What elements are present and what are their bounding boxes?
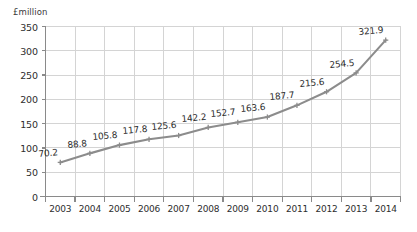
x-axis-tick-label: 2010 xyxy=(256,204,278,214)
x-axis-tick-label: 2008 xyxy=(197,204,219,214)
x-axis-tick-label: 2003 xyxy=(49,204,71,214)
x-axis-tick-label: 2004 xyxy=(79,204,101,214)
y-axis-tick-label: 0 xyxy=(8,191,38,202)
x-axis-tick-label: 2006 xyxy=(138,204,160,214)
y-axis-tick-label: 150 xyxy=(8,118,38,129)
x-axis-tick-label: 2014 xyxy=(375,204,397,214)
line-chart: £million 050100150200250300350 200320042… xyxy=(0,0,417,232)
y-axis-tick-label: 200 xyxy=(8,94,38,105)
x-axis-tick-label: 2012 xyxy=(315,204,337,214)
x-axis-tick-label: 2013 xyxy=(345,204,367,214)
y-axis-tick-label: 350 xyxy=(8,21,38,32)
y-axis-tick-label: 100 xyxy=(8,142,38,153)
y-axis-tick-label: 300 xyxy=(8,45,38,56)
y-axis-tick-label: 50 xyxy=(8,167,38,178)
x-axis-tick-label: 2007 xyxy=(168,204,190,214)
x-axis-tick-label: 2009 xyxy=(227,204,249,214)
plot-area xyxy=(0,0,417,232)
x-axis-tick-label: 2011 xyxy=(286,204,308,214)
x-axis-tick-label: 2005 xyxy=(108,204,130,214)
y-axis-tick-label: 250 xyxy=(8,70,38,81)
data-point-label: 254.5 xyxy=(329,58,355,70)
figure-caption-clipped xyxy=(0,225,417,232)
data-point-label: 215.6 xyxy=(299,77,325,89)
